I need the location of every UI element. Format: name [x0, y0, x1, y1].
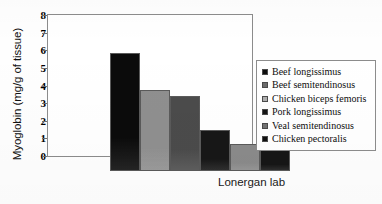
- legend-item-label: Chicken pectoralis: [272, 134, 347, 144]
- chart-caption: Lonergan lab: [218, 176, 285, 188]
- legend-item: Veal semitendinosus: [262, 119, 371, 133]
- legend-swatch-icon: [262, 123, 268, 129]
- myoglobin-bar-chart-figure: Myoglobin (mg/g of tissue) 012345678 Lon…: [0, 0, 382, 204]
- bar: [200, 130, 230, 171]
- chart-legend: Beef longissimusBeef semitendinosusChick…: [256, 60, 376, 151]
- legend-item-label: Pork longissimus: [272, 107, 341, 117]
- legend-swatch-icon: [262, 136, 268, 142]
- legend-item-label: Beef longissimus: [272, 67, 341, 77]
- legend-item: Chicken pectoralis: [262, 133, 371, 147]
- bar: [110, 53, 140, 171]
- legend-item: Chicken biceps femoris: [262, 92, 371, 106]
- legend-swatch-icon: [262, 109, 268, 115]
- legend-swatch-icon: [262, 96, 268, 102]
- legend-item: Pork longissimus: [262, 106, 371, 120]
- legend-item-label: Chicken biceps femoris: [272, 94, 366, 104]
- legend-item: Beef longissimus: [262, 65, 371, 79]
- bar: [260, 149, 290, 171]
- legend-swatch-icon: [262, 82, 268, 88]
- legend-item-label: Veal semitendinosus: [272, 121, 354, 131]
- legend-swatch-icon: [262, 69, 268, 75]
- bar: [170, 96, 200, 171]
- legend-item-label: Beef semitendinosus: [272, 80, 355, 90]
- bar: [140, 90, 170, 171]
- plot-area-frame: [47, 14, 253, 157]
- legend-item: Beef semitendinosus: [262, 79, 371, 93]
